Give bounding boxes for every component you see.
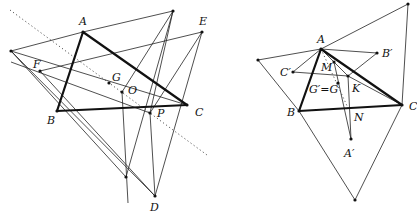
point-E (200, 30, 203, 33)
point-P (148, 111, 151, 114)
outer-polygon (258, 4, 408, 200)
point-outer-left (256, 58, 259, 61)
point-D (153, 194, 156, 197)
label-A-right: A (316, 33, 325, 46)
label-B-right: B (286, 106, 295, 119)
point-A (81, 30, 84, 33)
line-Bprime-to-K (348, 53, 377, 76)
point-outer-bottom (353, 198, 356, 201)
left-figure: A B C D E F G O P (9, 9, 207, 214)
diagram-canvas: A B C D E F G O P (0, 0, 417, 222)
point-M (332, 60, 335, 63)
line-top-to-O (122, 11, 173, 92)
point-G (107, 81, 110, 84)
line-F-to-E (40, 32, 202, 71)
point-K (346, 74, 349, 77)
line-A-to-Bprime (321, 49, 377, 53)
point-A-right (319, 47, 322, 50)
point-Bprime (375, 51, 378, 54)
label-K: K (351, 82, 361, 95)
label-P: P (156, 107, 165, 120)
line-P-to-D (150, 113, 155, 196)
line-left-to-lower (11, 51, 126, 177)
label-E: E (198, 15, 207, 28)
point-left (9, 49, 12, 52)
point-C-right (400, 103, 403, 106)
point-outer-top (406, 2, 409, 5)
label-M: M (320, 61, 333, 74)
label-D: D (149, 201, 159, 214)
label-F: F (32, 58, 41, 71)
label-Bprime: B′ (381, 47, 393, 60)
label-C: C (195, 106, 204, 119)
point-B-right (297, 109, 300, 112)
point-Aprime (349, 137, 352, 140)
line-top-to-P (150, 11, 173, 113)
point-B (55, 109, 58, 112)
line-E-to-P (150, 32, 202, 113)
label-Aprime: A′ (343, 147, 355, 160)
label-A: A (78, 15, 87, 28)
label-Cprime: C′ (280, 66, 291, 79)
label-G: G (112, 71, 121, 84)
point-C (185, 103, 188, 106)
point-top (171, 9, 174, 12)
right-figure: A B C B′ C′ A′ M K N G′=G (256, 2, 417, 201)
point-Cprime (291, 70, 294, 73)
label-N: N (353, 111, 364, 124)
label-Gprime-eq-G: G′=G (309, 83, 339, 96)
point-O (120, 90, 123, 93)
label-B: B (46, 114, 55, 127)
point-lower (124, 175, 127, 178)
label-O: O (128, 84, 137, 97)
label-C-right: C (409, 100, 417, 113)
line-M-to-Aprime (334, 62, 351, 139)
